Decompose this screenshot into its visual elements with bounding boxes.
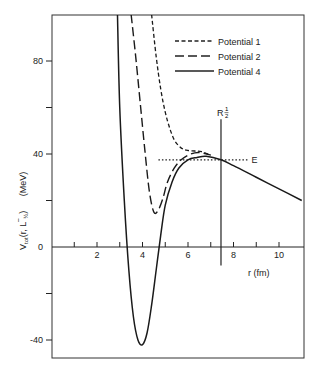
x-tick-label: 10 bbox=[274, 250, 284, 260]
r-half-label: R 1 2 bbox=[217, 106, 229, 119]
legend: Potential 1 Potential 2 Potential 4 bbox=[175, 37, 261, 77]
energy-label: E bbox=[251, 155, 257, 165]
x-axis-ticks: 246810 bbox=[74, 242, 284, 260]
y-tick-label: 0 bbox=[38, 242, 43, 252]
legend-label-potential-2: Potential 2 bbox=[218, 52, 261, 62]
y-tick-label: -40 bbox=[30, 335, 43, 345]
y-axis-title: Vtot(r, L‾½) (MeV) bbox=[18, 172, 29, 250]
svg-text:R: R bbox=[217, 108, 224, 118]
svg-text:2: 2 bbox=[225, 113, 229, 119]
legend-label-potential-1: Potential 1 bbox=[218, 37, 261, 47]
y-axis-ticks: 80400-40 bbox=[30, 56, 52, 345]
x-tick-label: 8 bbox=[231, 250, 236, 260]
x-axis-title: r (fm) bbox=[248, 268, 270, 278]
series-potential-4 bbox=[117, 15, 301, 346]
legend-label-potential-4: Potential 4 bbox=[218, 67, 261, 77]
x-tick-label: 4 bbox=[140, 250, 145, 260]
series-group bbox=[117, 15, 301, 346]
x-tick-label: 6 bbox=[185, 250, 190, 260]
svg-text:1: 1 bbox=[225, 106, 229, 112]
svg-text:Vtot(r, L‾½) (MeV): Vtot(r, L‾½) (MeV) bbox=[18, 172, 29, 250]
y-tick-label: 40 bbox=[33, 149, 43, 159]
x-tick-label: 2 bbox=[94, 250, 99, 260]
chart-canvas: 246810 80400-40 E R 1 2 Potential 1 Pote… bbox=[0, 0, 319, 371]
plot-frame bbox=[52, 15, 304, 358]
y-tick-label: 80 bbox=[33, 56, 43, 66]
series-potential-1 bbox=[152, 15, 211, 156]
